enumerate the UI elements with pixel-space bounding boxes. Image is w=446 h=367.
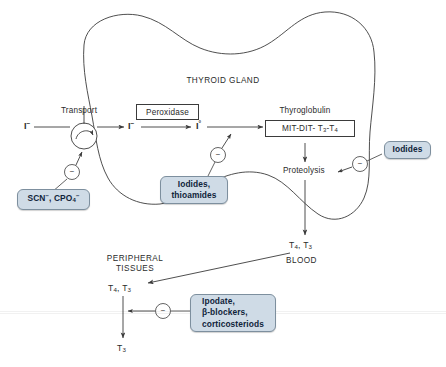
drug-box-organification-line1: Iodides, <box>178 179 210 189</box>
drug-box-proteolysis-inhibitors[interactable]: Iodides <box>384 141 431 159</box>
drug-box-transport-inhibitors[interactable]: SCN−, CPO4− <box>17 189 90 210</box>
iodine-oxidized-label: I° <box>196 120 201 131</box>
peroxidase-label: Peroxidase <box>146 108 189 117</box>
drug-box-peripheral-inhibitors[interactable]: Ipodate, β-blockers, corticosteriods <box>190 294 276 332</box>
thyroglobulin-contents-box: MIT-DIT- T3-T4 <box>265 120 355 137</box>
inhibit-transport-arrow <box>76 152 82 165</box>
drug-box-peripheral-line3: corticosteriods <box>202 319 264 329</box>
inhibit-peripheral-symbol: − <box>156 304 170 318</box>
inhibit-peroxidase-arrow <box>222 134 231 148</box>
transport-label: Transport <box>61 106 97 115</box>
drug-box-peripheral-line1: Ipodate, <box>202 296 235 306</box>
blood-hormones-label: T4, T3 <box>289 241 312 251</box>
drug-box-organification-inhibitors[interactable]: Iodides, thioamides <box>160 176 228 204</box>
iodide-intracellular-label: I− <box>128 120 134 131</box>
drug-box-transport-label: SCN−, CPO4− <box>27 193 79 205</box>
figure-canvas: THYROID GLAND Transport I− I− I° Peroxid… <box>0 0 446 367</box>
transport-carrier-circle <box>71 123 97 149</box>
inhibit-peroxidase-symbol: − <box>211 148 225 162</box>
inhibit-proteolysis-arrow <box>338 167 352 172</box>
drug-box-proteolysis-label: Iodides <box>392 144 422 155</box>
blood-label: BLOOD <box>286 256 317 265</box>
inhibit-proteolysis-symbol: − <box>353 157 367 171</box>
peroxidase-box: Peroxidase <box>136 104 199 120</box>
drug-box-organification-line2: thioamides <box>171 190 216 200</box>
proteolysis-label: Proteolysis <box>283 166 325 175</box>
iodide-extracellular-label: I− <box>24 120 30 131</box>
peripheral-t3-label: T3 <box>117 344 126 354</box>
inhibit-transport-symbol: − <box>65 165 79 179</box>
thyroglobulin-contents-label: MIT-DIT- T3-T4 <box>282 124 338 133</box>
thyroid-gland-label: THYROID GLAND <box>163 76 283 85</box>
peripheral-tissues-label-line1: PERIPHERAL <box>95 254 175 263</box>
peripheral-tissues-label-line2: TISSUES <box>95 264 175 273</box>
thyroglobulin-label: Thyroglobulin <box>255 106 355 115</box>
inhibit-peroxidase-leader <box>208 162 215 176</box>
peripheral-hormones-label: T4, T3 <box>108 284 131 294</box>
drug-box-peripheral-line2: β-blockers, <box>202 307 248 317</box>
thyroid-gland-outline <box>84 12 375 219</box>
